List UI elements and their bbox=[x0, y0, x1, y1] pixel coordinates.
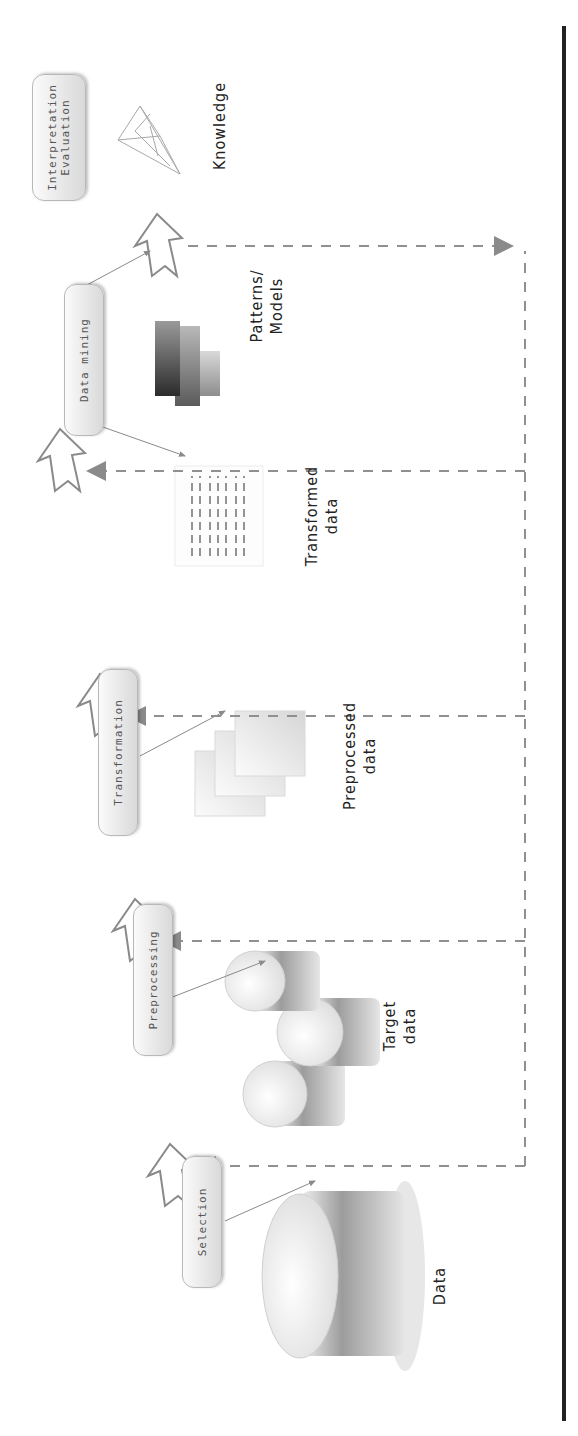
step-transformation: Transformation bbox=[98, 669, 138, 836]
database-cluster-icon bbox=[225, 951, 380, 1127]
step-label: Transformation bbox=[112, 699, 125, 806]
label-patterns-models: Patterns/ Models bbox=[247, 251, 287, 361]
step-label-line1: Interpretation bbox=[46, 84, 59, 191]
label-preprocessed-data: Preprocessed data bbox=[340, 681, 380, 831]
stacked-documents-icon bbox=[195, 711, 305, 816]
table-document-icon bbox=[175, 466, 263, 566]
label-target-data: Target data bbox=[380, 981, 420, 1071]
label-transformed-data: Transformed data bbox=[302, 446, 342, 586]
kdd-diagram: Selection Preprocessing Transformation D… bbox=[0, 0, 578, 1436]
step-selection: Selection bbox=[182, 1156, 222, 1288]
wireframe-pyramid-icon bbox=[118, 106, 180, 174]
label-data: Data bbox=[430, 1246, 450, 1326]
step-label: Selection bbox=[196, 1188, 209, 1257]
large-database-icon bbox=[262, 1181, 425, 1371]
step-preprocessing: Preprocessing bbox=[133, 904, 173, 1056]
step-label-line2: Evaluation bbox=[59, 99, 72, 175]
diagram-graphics bbox=[0, 0, 578, 1436]
step-label: Data mining bbox=[78, 318, 91, 402]
step-interpretation-evaluation: Interpretation Evaluation bbox=[32, 74, 86, 201]
bar-blocks-icon bbox=[155, 321, 220, 406]
label-knowledge: Knowledge bbox=[210, 61, 230, 191]
step-label: Preprocessing bbox=[147, 930, 160, 1029]
step-data-mining: Data mining bbox=[64, 284, 104, 436]
frame-rail bbox=[562, 26, 566, 1421]
